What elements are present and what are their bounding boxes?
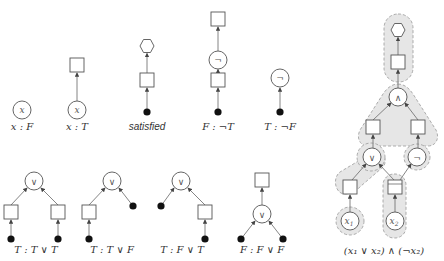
true-dot [237,235,244,242]
literal-node [4,205,18,219]
example-label: x : F [11,121,34,132]
example-or-true-false: ∨ T : T ∨ F [82,172,137,255]
edge [400,164,411,180]
example-or-false-true: ∨ T : F ∨ T [157,172,212,255]
output-hexagon-node [391,24,405,37]
not-symbol: ¬ [276,73,284,83]
literal-node [366,120,380,134]
example-label: T : F ∨ T [160,244,205,255]
or-symbol: ∨ [109,177,116,187]
example-label: T : T ∨ F [90,244,135,255]
example-or-true-true: ∨ T : T ∨ T [4,172,65,255]
example-satisfied: satisfied [129,40,166,133]
edge [188,188,205,205]
true-dot [157,202,164,209]
literal-node [51,205,65,219]
true-dot [85,235,92,242]
true-dot [214,108,221,115]
and-symbol: ∧ [395,93,402,103]
literal-node [198,205,212,219]
true-dot [54,235,61,242]
not-symbol: ¬ [413,153,421,163]
composite-formula-diagram: ∧ ∨ ¬ x1 x2 (x₁ ∨ x₂) ∧ (¬x₂) [335,14,437,256]
literal-node [388,180,402,194]
example-not-true: ¬ F : ¬T [201,12,235,132]
not-symbol: ¬ [214,55,222,65]
literal-node [411,120,425,134]
example-label: x : T [66,121,89,132]
literal-node [140,73,154,87]
literal-node [255,173,269,187]
literal-node [343,180,357,194]
variable-symbol: x [74,105,79,115]
example-not-false: ¬ T : ¬F [264,69,297,132]
variable-symbol: x [19,105,24,115]
example-label: F : F ∨ F [239,244,285,255]
literal-node [211,12,225,26]
true-dot [7,235,14,242]
edge [11,188,27,205]
example-variable-true: x x : T [66,58,89,132]
true-dot [201,235,208,242]
example-variable-false: x x : F [11,101,34,132]
literal-node [391,55,405,69]
edge [41,188,58,205]
or-symbol: ∨ [369,153,376,163]
example-or-false-false: ∨ F : F ∨ F [237,173,286,255]
composite-caption: (x₁ ∨ x₂) ∧ (¬x₂) [344,245,424,256]
example-label: F : ¬T [201,121,235,132]
or-symbol: ∨ [259,210,266,220]
true-dot [276,108,283,115]
or-symbol: ∨ [31,177,38,187]
literal-node [211,73,225,87]
circuit-diagram: x x : F x x : T satisfied ¬ F : ¬T ¬ T [0,0,444,261]
edge [89,188,105,205]
example-label: satisfied [129,121,166,132]
example-label: T : T ∨ T [14,244,59,255]
literal-node [70,58,84,72]
true-dot [129,202,136,209]
or-symbol: ∨ [178,177,185,187]
literal-node [82,205,96,219]
output-hexagon-node [140,40,154,53]
true-dot [143,108,150,115]
true-dot [279,235,286,242]
example-label: T : ¬F [264,121,297,132]
